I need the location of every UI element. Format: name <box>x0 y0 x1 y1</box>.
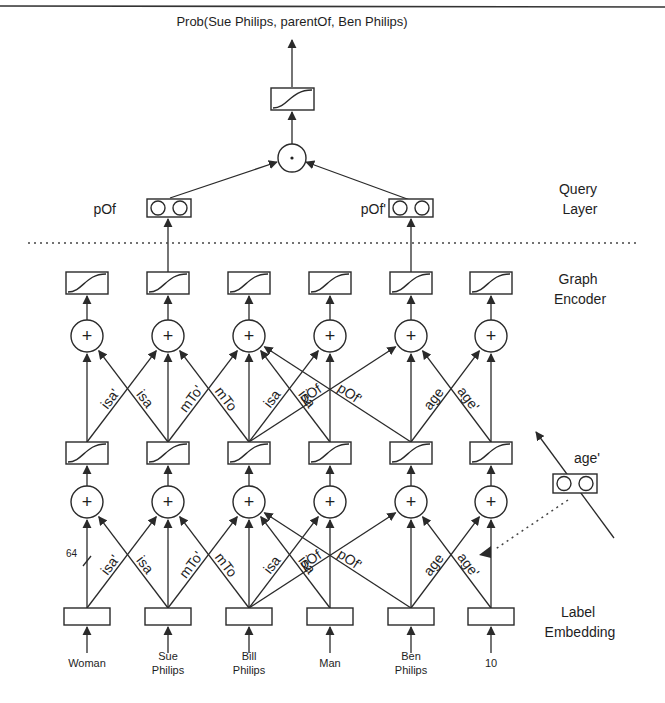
pof-query-edge <box>170 162 277 198</box>
sigmoid-box-layer1-2 <box>228 442 270 464</box>
svg-text:+: + <box>325 492 336 512</box>
sum-node-layer2-4: + <box>395 320 427 352</box>
sigmoid-box-layer2-5 <box>470 272 512 294</box>
relation-edge-label: age <box>420 384 447 412</box>
entity-label: 10 <box>485 657 497 669</box>
svg-text:+: + <box>486 326 497 346</box>
embedding-box <box>64 608 110 625</box>
sigmoid-box-layer1-4 <box>390 442 432 464</box>
relation-edge-label: age' <box>454 549 482 579</box>
relation-edge-label: age' <box>454 383 482 413</box>
svg-text:+: + <box>325 326 336 346</box>
sum-node-layer2-3: + <box>314 320 346 352</box>
svg-text:+: + <box>406 326 417 346</box>
graph-encoder-layer-1: ++++++isa'isamTo'mToisaisapOfpOf'ageage' <box>66 442 512 608</box>
entity-label: Woman <box>68 657 106 669</box>
sigmoid-box-layer2-0 <box>66 272 108 294</box>
svg-text:+: + <box>82 326 93 346</box>
sum-node-layer1-3: + <box>314 486 346 518</box>
embedding-box <box>388 608 434 625</box>
dot-product-node <box>278 144 306 172</box>
relation-edge-label: isa <box>133 387 157 411</box>
embedding-box <box>307 608 353 625</box>
knowledge-graph-diagram: Prob(Sue Philips, parentOf, Ben Philips)… <box>0 0 665 703</box>
inset-relation-label: age' <box>574 450 600 466</box>
query-left-vector <box>147 199 191 217</box>
query-right-vector <box>389 199 433 217</box>
sigmoid-box-layer1-5 <box>470 442 512 464</box>
top-border <box>0 6 665 7</box>
query-left-label: pOf <box>93 201 116 217</box>
dimension-annotation: 64 <box>66 548 78 559</box>
relation-edge-label: age <box>420 550 447 578</box>
relation-edge-label: isa' <box>97 386 122 412</box>
sum-node-layer2-0: + <box>71 320 103 352</box>
entity-label: BillPhilips <box>233 650 266 676</box>
svg-text:+: + <box>244 492 255 512</box>
relation-edge-label: isa' <box>97 552 122 578</box>
sigmoid-box-layer1-3 <box>309 442 351 464</box>
inset-vector <box>553 474 597 493</box>
sum-node-layer2-1: + <box>152 320 184 352</box>
sigmoid-box-layer2-1 <box>147 272 189 294</box>
sum-node-layer1-5: + <box>475 486 507 518</box>
sum-node-layer1-1: + <box>152 486 184 518</box>
sigmoid-box-layer2-2 <box>228 272 270 294</box>
embedding-box <box>226 608 272 625</box>
query-layer-label: Query Layer <box>559 181 601 217</box>
sum-node-layer1-0: + <box>71 486 103 518</box>
svg-text:+: + <box>82 492 93 512</box>
graph-encoder-label: Graph Encoder <box>554 271 606 307</box>
relation-edge-label: isa <box>260 553 284 577</box>
svg-text:+: + <box>406 492 417 512</box>
query-right-label: pOf' <box>361 201 386 217</box>
sum-node-layer1-2: + <box>233 486 265 518</box>
diagram-title: Prob(Sue Philips, parentOf, Ben Philips) <box>176 14 407 29</box>
svg-text:+: + <box>163 492 174 512</box>
pof-prime-query-edge <box>306 162 410 200</box>
sigmoid-box-layer2-4 <box>390 272 432 294</box>
entity-label: SuePhilips <box>152 650 185 676</box>
svg-text:+: + <box>163 326 174 346</box>
relation-edge-label: isa <box>260 387 284 411</box>
label-embedding-layer: WomanSuePhilipsBillPhilipsManBenPhilips1… <box>64 608 514 676</box>
sum-node-layer2-5: + <box>475 320 507 352</box>
embedding-box <box>145 608 191 625</box>
label-embedding-label: Label Embedding <box>545 604 616 640</box>
entity-label: Man <box>319 657 340 669</box>
sum-node-layer1-4: + <box>395 486 427 518</box>
svg-text:+: + <box>244 326 255 346</box>
svg-text:+: + <box>486 492 497 512</box>
relation-edge-label: isa <box>133 553 157 577</box>
entity-label: BenPhilips <box>395 650 428 676</box>
sum-node-layer2-2: + <box>233 320 265 352</box>
embedding-box <box>468 608 514 625</box>
graph-encoder-layer-2: ++++++isa'isamTo'mToisaisapOfpOf'ageage' <box>66 272 512 442</box>
sigmoid-box-layer1-1 <box>147 442 189 464</box>
sigmoid-box-layer1-0 <box>66 442 108 464</box>
sigmoid-box-layer2-3 <box>309 272 351 294</box>
output-sigmoid-box <box>271 88 314 110</box>
